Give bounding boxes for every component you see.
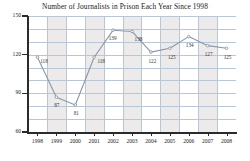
x-tick-mark bbox=[94, 133, 95, 136]
data-point-marker bbox=[74, 104, 77, 107]
data-point-label: 138 bbox=[135, 36, 143, 42]
x-tick-label: 1998 bbox=[32, 138, 43, 144]
data-point-label: 122 bbox=[149, 58, 157, 64]
y-tick-label: 90 bbox=[0, 89, 21, 95]
x-tick-mark bbox=[37, 133, 38, 136]
y-tick-mark bbox=[22, 15, 28, 17]
x-tick-label: 2006 bbox=[183, 138, 194, 144]
data-point-label: 125 bbox=[224, 54, 232, 60]
chart-figure: Number of Journalists in Prison Each Yea… bbox=[0, 0, 250, 161]
y-tick-label: 150 bbox=[0, 12, 21, 18]
data-point-marker bbox=[112, 29, 115, 32]
x-tick-label: 2002 bbox=[107, 138, 118, 144]
x-tick-label: 2000 bbox=[70, 138, 81, 144]
x-tick-mark bbox=[151, 133, 152, 136]
data-point-label: 118 bbox=[40, 58, 48, 64]
x-tick-label: 2007 bbox=[202, 138, 213, 144]
data-point-label: 81 bbox=[74, 110, 79, 116]
data-point-marker bbox=[36, 56, 39, 59]
x-tick-label: 2003 bbox=[126, 138, 137, 144]
x-tick-mark bbox=[75, 133, 76, 136]
x-tick-label: 1999 bbox=[51, 138, 62, 144]
x-tick-label: 2005 bbox=[164, 138, 175, 144]
series-line-layer bbox=[0, 0, 250, 161]
data-point-label: 118 bbox=[97, 58, 105, 64]
x-tick-label: 2008 bbox=[221, 138, 232, 144]
series-line bbox=[37, 30, 226, 105]
data-point-marker bbox=[187, 35, 190, 38]
x-tick-mark bbox=[132, 133, 133, 136]
data-point-marker bbox=[225, 47, 228, 50]
x-tick-mark bbox=[170, 133, 171, 136]
y-tick-mark bbox=[22, 93, 28, 95]
x-tick-mark bbox=[189, 133, 190, 136]
data-point-marker bbox=[93, 56, 96, 59]
data-point-marker bbox=[206, 44, 209, 47]
data-point-marker bbox=[131, 30, 134, 33]
x-tick-label: 2004 bbox=[145, 138, 156, 144]
data-point-marker bbox=[55, 96, 58, 99]
data-point-label: 87 bbox=[54, 102, 59, 108]
data-point-label: 134 bbox=[186, 42, 194, 48]
y-tick-mark bbox=[22, 131, 28, 133]
x-tick-mark bbox=[208, 133, 209, 136]
y-tick-mark bbox=[22, 54, 28, 56]
data-point-label: 125 bbox=[168, 54, 176, 60]
x-tick-mark bbox=[113, 133, 114, 136]
y-tick-label: 120 bbox=[0, 51, 21, 57]
x-tick-label: 2001 bbox=[89, 138, 100, 144]
data-point-marker bbox=[169, 47, 172, 50]
x-tick-mark bbox=[56, 133, 57, 136]
data-point-marker bbox=[150, 51, 153, 54]
data-point-label: 127 bbox=[205, 51, 213, 57]
data-point-label: 139 bbox=[109, 35, 117, 41]
y-tick-label: 60 bbox=[0, 128, 21, 134]
x-tick-mark bbox=[227, 133, 228, 136]
